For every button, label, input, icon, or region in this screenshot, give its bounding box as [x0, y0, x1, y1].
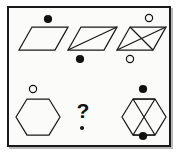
parallelogram-outline [19, 27, 68, 50]
marker-hollow-above [145, 14, 152, 21]
parallelogram-diagonal-2 [130, 27, 153, 50]
cell-r2c1 [16, 85, 60, 135]
marker-filled-below [139, 132, 147, 140]
hexagon-outline [16, 99, 60, 135]
puzzle-figure: ? [0, 0, 180, 156]
cell-r1c3 [117, 14, 166, 62]
marker-filled-below [76, 55, 84, 63]
marker-hollow-below [126, 55, 133, 62]
question-mark-dot [80, 126, 84, 130]
cell-r1c2 [68, 27, 117, 63]
cell-r1c1 [19, 15, 68, 50]
marker-hollow-above [29, 85, 36, 92]
matrix-cells [0, 0, 180, 156]
marker-filled-above [139, 85, 147, 93]
cell-r2c3 [122, 85, 166, 140]
missing-cell-question-mark: ? [72, 100, 94, 121]
parallelogram-diagonal [68, 27, 117, 50]
marker-filled-above [44, 15, 52, 23]
